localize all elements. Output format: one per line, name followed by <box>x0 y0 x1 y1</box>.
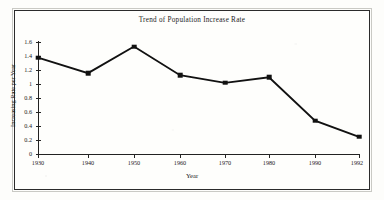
data-point-marker <box>223 81 228 86</box>
data-point-marker <box>313 118 318 123</box>
data-point-marker <box>357 135 362 140</box>
data-point-marker <box>178 73 183 78</box>
data-point-marker <box>36 55 41 60</box>
data-point-marker <box>86 71 91 76</box>
chart-figure: Trend of Population Increase Rate 0 0.2 … <box>0 0 384 200</box>
y-axis-title: Increasing Rate per Year <box>9 50 16 142</box>
data-series-line <box>0 0 384 200</box>
data-point-marker <box>267 75 272 80</box>
data-point-marker <box>132 44 137 49</box>
x-axis-title: Year <box>0 172 384 179</box>
